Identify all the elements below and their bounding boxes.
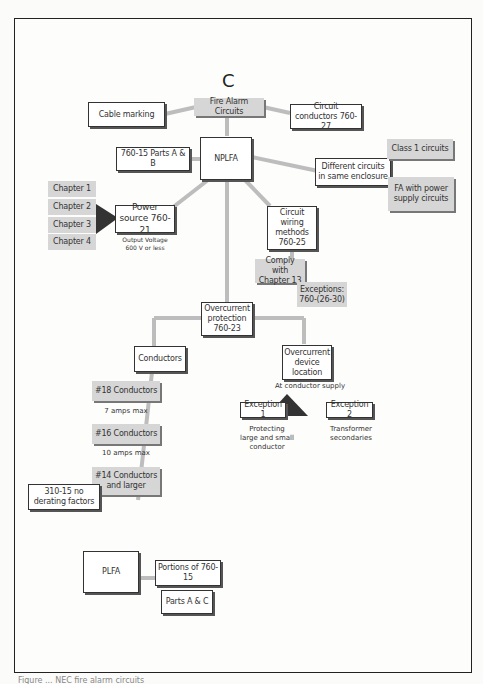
figure-caption: Figure ... NEC fire alarm circuits: [18, 676, 144, 684]
node-circuit-conductors: Circuit conductors 760-27: [290, 104, 362, 129]
at-conductor-supply-note: At conductor supply: [270, 382, 350, 391]
node-overcurrent-device-location: Overcurrent device location: [282, 345, 332, 380]
node-class1-circuits: Class 1 circuits: [387, 139, 453, 159]
node-no-derating: 310-15 no derating factors: [28, 484, 100, 510]
exception-2-note: Transformer secondaries: [326, 425, 376, 443]
node-exception-2: Exception 2: [326, 402, 373, 418]
c18-note: 7 amps max: [92, 407, 160, 416]
node-exceptions: Exceptions: 760-(26-30): [297, 282, 347, 307]
node-chapter-3: Chapter 3: [48, 217, 96, 233]
node-overcurrent-protection: Overcurrent protection 760-23: [201, 302, 253, 336]
c16-note: 10 amps max: [92, 449, 160, 458]
node-fa-power-supply: FA with power supply circuits: [388, 177, 454, 211]
node-chapter-1: Chapter 1: [48, 181, 96, 197]
node-portions-760-15: Portions of 760-15: [155, 560, 221, 586]
node-nplfa: NPLFA: [200, 137, 252, 180]
node-comply-chapter-13: Comply with Chapter 13: [255, 259, 305, 283]
exception-1-note: Protecting large and small conductor: [240, 425, 294, 451]
node-power-source: Power source 760-21: [115, 205, 175, 233]
node-cable-marking: Cable marking: [88, 102, 165, 127]
node-parts-ab: 760-15 Parts A & B: [116, 147, 190, 171]
node-fire-alarm-circuits: Fire Alarm Circuits: [194, 98, 264, 116]
node-parts-ac: Parts A & C: [161, 590, 213, 614]
diagram-title: C: [222, 70, 235, 91]
node-conductors: Conductors: [134, 346, 186, 372]
node-14-conductors: #14 Conductors and larger: [92, 467, 160, 495]
node-exception-1: Exception 1: [240, 402, 286, 418]
node-plfa: PLFA: [83, 551, 139, 593]
output-voltage-note: Output Voltage 600 V or less: [118, 236, 172, 251]
node-18-conductors: #18 Conductors: [92, 381, 160, 401]
node-circuit-wiring-methods: Circuit wiring methods 760-25: [267, 206, 317, 250]
node-chapter-4: Chapter 4: [48, 234, 96, 250]
node-different-circuits: Different circuits in same enclosure: [315, 158, 391, 186]
node-chapter-2: Chapter 2: [48, 199, 96, 215]
node-16-conductors: #16 Conductors: [92, 424, 160, 444]
